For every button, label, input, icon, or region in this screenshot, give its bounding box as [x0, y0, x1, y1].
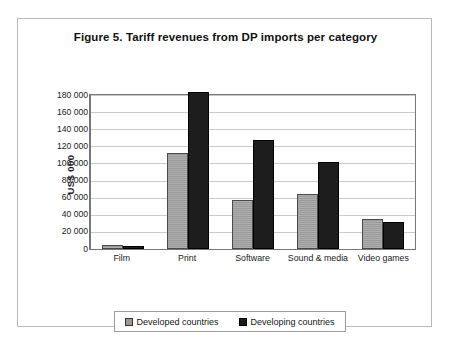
- y-axis-tick-label: 160 000: [40, 108, 88, 117]
- y-axis-tick-label: 40 000: [40, 210, 88, 219]
- plot-area: [89, 94, 416, 250]
- y-axis-tick-label: 180 000: [40, 91, 88, 100]
- x-axis-tick-label: Video games: [351, 253, 416, 263]
- bar: [102, 245, 123, 249]
- bar-group: [156, 95, 221, 249]
- x-axis-tick-label: Film: [89, 253, 154, 263]
- bar: [297, 194, 318, 249]
- x-axis-tick-labels: FilmPrintSoftwareSound & mediaVideo game…: [89, 253, 416, 263]
- bar-group: [285, 95, 350, 249]
- y-axis-tick-label: 0: [40, 245, 88, 254]
- bars-layer: [91, 95, 415, 249]
- bar: [383, 222, 404, 249]
- legend-swatch-icon: [239, 318, 247, 326]
- y-axis-tick-label: 140 000: [40, 125, 88, 134]
- y-axis-tick-label: 80 000: [40, 176, 88, 185]
- y-axis-tick-label: 120 000: [40, 142, 88, 151]
- y-axis-tick-label: 60 000: [40, 193, 88, 202]
- bar: [123, 246, 144, 249]
- bar-group: [221, 95, 286, 249]
- legend-swatch-icon: [125, 318, 133, 326]
- legend-entry: Developed countries: [125, 317, 218, 327]
- x-axis-tick-label: Print: [154, 253, 219, 263]
- bar: [362, 219, 383, 249]
- legend-entry: Developing countries: [239, 317, 334, 327]
- bar: [318, 162, 339, 249]
- bar-group: [350, 95, 415, 249]
- bar: [167, 153, 188, 249]
- bar-group: [91, 95, 156, 249]
- legend-label: Developed countries: [136, 317, 218, 327]
- bar: [253, 140, 274, 250]
- x-axis-tick-label: Sound & media: [285, 253, 350, 263]
- y-axis-tick-label: 100 000: [40, 159, 88, 168]
- figure-frame: Figure 5. Tariff revenues from DP import…: [17, 18, 432, 327]
- bar: [188, 92, 209, 249]
- legend-label: Developing countries: [250, 317, 334, 327]
- y-axis-tick-label: 20 000: [40, 227, 88, 236]
- bar: [232, 200, 253, 249]
- y-axis-tick-labels: 180 000160 000140 000120 000100 00080 00…: [40, 94, 88, 254]
- chart-title: Figure 5. Tariff revenues from DP import…: [18, 31, 433, 43]
- chart-legend: Developed countriesDeveloping countries: [114, 311, 346, 332]
- x-axis-tick-label: Software: [220, 253, 285, 263]
